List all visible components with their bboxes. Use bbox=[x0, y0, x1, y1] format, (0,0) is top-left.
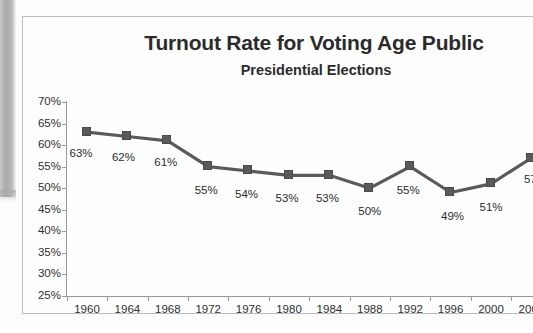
plot-area: 70%65%60%55%50%45%40%35%30%25% 196019641… bbox=[23, 17, 533, 315]
data-point-label: 61% bbox=[144, 157, 188, 169]
data-point-marker bbox=[405, 161, 414, 170]
data-point-marker bbox=[324, 170, 333, 179]
data-point-label: 53% bbox=[305, 193, 349, 205]
data-point-label: 53% bbox=[265, 193, 309, 205]
data-point-marker bbox=[162, 135, 171, 144]
chart-page: Turnout Rate for Voting Age Public Presi… bbox=[0, 0, 533, 333]
data-point-label: 54% bbox=[225, 189, 269, 201]
data-point-marker bbox=[284, 170, 293, 179]
data-point-marker bbox=[445, 187, 454, 196]
data-point-marker bbox=[486, 178, 495, 187]
data-point-marker bbox=[203, 161, 212, 170]
data-point-marker bbox=[122, 131, 131, 140]
series-line bbox=[23, 17, 533, 315]
scan-edge-shadow-fade bbox=[0, 190, 16, 202]
data-point-marker bbox=[364, 183, 373, 192]
data-point-label: 50% bbox=[348, 206, 392, 218]
chart-frame: Turnout Rate for Voting Age Public Presi… bbox=[22, 16, 533, 314]
data-point-label: 63% bbox=[59, 148, 103, 160]
data-point-label: 51% bbox=[469, 202, 513, 214]
data-point-label: 55% bbox=[184, 185, 228, 197]
data-point-marker bbox=[82, 127, 91, 136]
data-point-marker bbox=[243, 165, 252, 174]
data-point-label: 57% bbox=[513, 174, 533, 186]
data-point-label: 62% bbox=[101, 152, 145, 164]
data-point-marker bbox=[526, 153, 533, 162]
data-point-label: 55% bbox=[386, 185, 430, 197]
scan-edge-shadow bbox=[0, 0, 16, 197]
data-point-label: 49% bbox=[431, 211, 475, 223]
